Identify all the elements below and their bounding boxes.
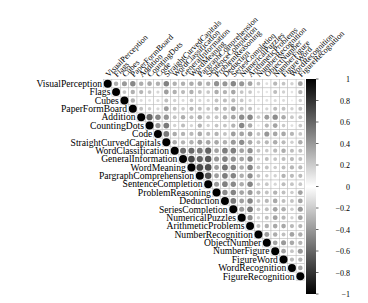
correlation-circle xyxy=(248,81,253,86)
correlation-circle xyxy=(181,90,185,94)
correlation-plot: VisualPerceptionFlagsCubesPaperFormBoard… xyxy=(0,0,368,303)
correlation-circle xyxy=(239,115,244,120)
correlation-circle xyxy=(298,132,302,136)
correlation-circle xyxy=(257,91,260,94)
correlation-circle xyxy=(273,232,278,237)
correlation-circle xyxy=(273,215,278,220)
correlation-circle xyxy=(239,198,244,203)
correlation-circle xyxy=(123,90,127,94)
correlation-circle xyxy=(206,132,210,136)
correlation-circle xyxy=(205,173,212,180)
correlation-circle xyxy=(223,124,227,128)
correlation-circle xyxy=(222,81,227,86)
correlation-circle xyxy=(298,157,302,161)
correlation-circle xyxy=(189,132,193,136)
correlation-circle xyxy=(239,182,244,187)
correlation-circle xyxy=(257,157,260,160)
correlation-circle xyxy=(239,174,244,179)
correlation-circle xyxy=(230,148,236,154)
correlation-circle xyxy=(231,156,236,161)
correlation-circle xyxy=(223,140,227,144)
correlation-circle xyxy=(265,99,268,102)
correlation-circle xyxy=(173,124,176,127)
correlation-circle xyxy=(290,115,294,119)
correlation-circle xyxy=(215,98,219,102)
correlation-circle xyxy=(207,99,210,102)
correlation-circle xyxy=(214,81,219,86)
correlation-circle xyxy=(273,199,278,204)
correlation-circle xyxy=(206,124,209,127)
correlation-circle xyxy=(182,99,185,102)
correlation-circle xyxy=(173,99,176,102)
correlation-circle xyxy=(139,90,143,94)
correlation-circle xyxy=(173,115,177,119)
correlation-circle xyxy=(273,190,277,194)
correlation-circle xyxy=(206,115,210,119)
correlation-circle xyxy=(282,232,286,236)
correlation-circle xyxy=(264,131,269,136)
correlation-circle xyxy=(197,81,202,86)
correlation-circle xyxy=(156,90,159,93)
correlation-circle xyxy=(265,207,269,211)
correlation-circle xyxy=(156,99,159,102)
correlation-circle xyxy=(256,190,260,194)
correlation-circle xyxy=(290,182,294,186)
correlation-circle xyxy=(247,156,252,161)
correlation-circle xyxy=(198,123,202,127)
correlation-circle xyxy=(273,207,278,212)
correlation-circle xyxy=(266,91,269,94)
correlation-circle xyxy=(247,173,252,178)
correlation-circle xyxy=(230,198,236,204)
correlation-circle xyxy=(172,81,176,85)
correlation-circle xyxy=(223,107,227,111)
colorbar-tick-label: −1 xyxy=(341,290,350,299)
correlation-circle xyxy=(273,123,278,128)
correlation-circle xyxy=(248,107,252,111)
correlation-circle xyxy=(298,199,303,204)
correlation-circle xyxy=(206,90,210,94)
correlation-circle xyxy=(256,149,260,153)
correlation-circle xyxy=(231,115,236,120)
correlation-circle xyxy=(247,206,253,212)
correlation-circle xyxy=(298,257,302,261)
colorbar-tick-label: 0.6 xyxy=(340,118,350,127)
correlation-circle xyxy=(290,82,293,85)
correlation-circle xyxy=(257,216,260,219)
correlation-circle xyxy=(239,148,244,153)
correlation-circle xyxy=(164,90,169,95)
correlation-circle xyxy=(189,115,193,119)
correlation-circle xyxy=(188,148,194,154)
correlation-circle xyxy=(239,132,244,137)
correlation-circle xyxy=(156,107,159,110)
colorbar-tick-label: −0.4 xyxy=(335,226,350,235)
correlation-circle xyxy=(257,115,261,119)
correlation-circle xyxy=(265,149,269,153)
correlation-circle xyxy=(282,165,286,169)
correlation-circle xyxy=(164,98,168,102)
correlation-circle xyxy=(231,165,237,171)
correlation-circle xyxy=(222,173,228,179)
correlation-circle xyxy=(298,81,303,86)
correlation-circle xyxy=(223,132,227,136)
correlation-circle xyxy=(265,216,269,220)
correlation-circle xyxy=(257,99,260,102)
correlation-circle xyxy=(163,123,169,129)
correlation-circle xyxy=(205,156,211,162)
correlation-circle xyxy=(148,99,151,102)
correlation-circle xyxy=(248,90,252,94)
correlation-circle xyxy=(222,148,228,154)
correlation-circle xyxy=(265,165,269,169)
correlation-circle xyxy=(298,266,303,271)
correlation-circle xyxy=(147,81,152,86)
correlation-circle xyxy=(198,107,202,111)
correlation-circle xyxy=(298,207,303,212)
correlation-circle xyxy=(273,107,277,111)
correlation-circle xyxy=(181,107,185,111)
correlation-circle xyxy=(164,106,169,111)
correlation-circle xyxy=(222,164,228,170)
correlation-circle xyxy=(197,140,202,145)
correlation-circle xyxy=(290,199,294,203)
correlation-circle xyxy=(231,173,237,179)
correlation-circle xyxy=(181,124,185,128)
correlation-circle xyxy=(274,183,277,186)
